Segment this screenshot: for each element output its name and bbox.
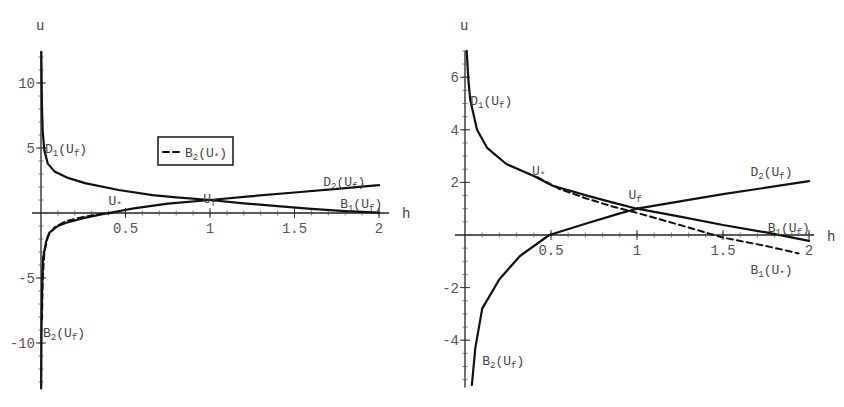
y-tick-label: -4 [442,333,459,349]
x-tick-label: 2 [805,243,813,259]
annotation-ustar: U* [109,194,122,211]
curve-b2-ustar [42,213,112,320]
x-tick-label: 2 [375,221,383,237]
y-tick-label: 2 [451,175,459,191]
y-axis-label: u [460,18,468,34]
annotation-b2-uf: B2(Uf) [482,354,524,371]
y-tick-label: 4 [451,123,459,139]
plot-layer: 0.511.52-10-5510D1(Uf)U*UfD2(Uf)B1(Uf)B2… [10,52,389,389]
legend: B2(U*) [158,137,233,165]
x-axis-label: h [827,229,835,245]
plot-layer: 0.511.52-4-2246D1(Uf)U*UfD2(Uf)B1(Uf)B1(… [442,51,814,388]
right-chart: 0.511.52-4-2246D1(Uf)U*UfD2(Uf)B1(Uf)B1(… [442,18,835,388]
y-tick-label: 6 [451,70,459,86]
annotation-uf: Uf [628,188,641,205]
curve-d1-uf [41,52,210,200]
annotation-d1-uf: D1(Uf) [45,142,87,159]
annotation-uf: Uf [203,192,216,209]
annotation-b1-uf: B1(Uf) [340,197,382,214]
annotation-b1-uf: B1(Uf) [768,221,810,238]
y-tick-label: -2 [442,281,459,297]
x-tick-label: 0.5 [113,221,138,237]
left-chart: 0.511.52-10-5510D1(Uf)U*UfD2(Uf)B1(Uf)B2… [10,18,411,389]
annotation-b2-uf: B2(Uf) [43,326,85,343]
legend-entry-b2-ustar: B2(U*) [185,146,227,163]
x-tick-label: 1 [633,243,641,259]
y-tick-label: -10 [10,336,35,352]
annotation-d2-uf: D2(Uf) [751,165,793,182]
annotation-b1-ustar: B1(U*) [751,263,793,280]
annotation-d2-uf: D2(Uf) [323,175,365,192]
curve-d2-uf [637,181,809,209]
figure: 0.511.52-10-5510D1(Uf)U*UfD2(Uf)B1(Uf)B2… [0,0,844,407]
annotation-d1-uf: D1(Uf) [470,94,512,111]
y-tick-label: 10 [18,76,35,92]
x-tick-label: 0.5 [538,243,563,259]
x-axis-label: h [402,206,410,222]
y-tick-label: -5 [18,271,35,287]
x-tick-label: 1.5 [710,243,735,259]
y-tick-label: 5 [27,141,35,157]
y-axis-label: u [36,18,44,34]
x-tick-label: 1 [206,221,214,237]
annotation-ustar: U* [532,164,545,181]
x-tick-label: 1.5 [282,221,307,237]
